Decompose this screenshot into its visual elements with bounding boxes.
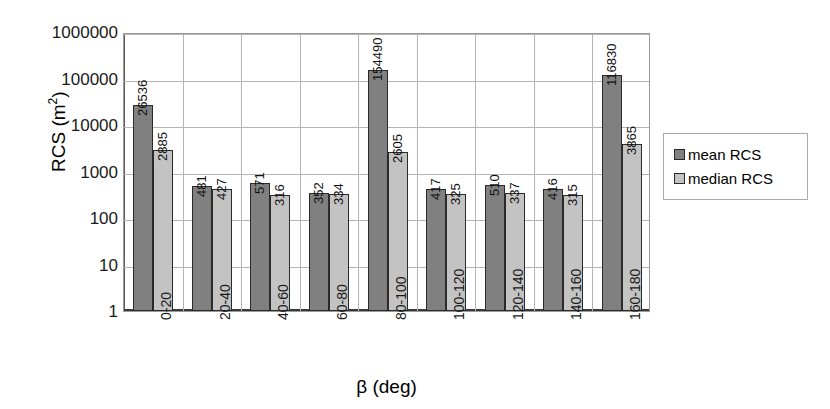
x-axis-tick-label: 120-140 [511,269,525,320]
rcs-bar-chart: RCS (m2) 1000000100000100001000100101 26… [0,0,830,409]
y-axis-tick-label: 10 [99,257,118,274]
legend-swatch-icon [674,173,685,184]
x-axis-title: β (deg) [123,376,650,398]
bar-value-label: 510 [488,174,501,196]
bar-mean[interactable] [309,193,329,311]
x-gridline [183,34,184,311]
y-axis-tick-label: 1 [109,303,118,320]
bar-value-label: 571 [253,172,266,194]
bar-value-label: 116830 [605,44,618,86]
y-axis-tick-labels: 1000000100000100001000100101 [0,0,118,409]
x-axis-tick-label: 20-40 [218,284,232,320]
bar-value-label: 2885 [156,132,169,161]
bar-value-label: 325 [449,183,462,205]
legend-label: mean RCS [688,147,761,162]
bar-mean[interactable] [250,183,270,311]
bar-mean[interactable] [543,189,563,311]
x-axis-tick-label: 40-60 [276,284,290,320]
bar-median[interactable] [153,150,173,311]
bar-mean[interactable] [133,105,153,311]
y-axis-tick-label: 10000 [71,117,118,134]
x-gridline [358,34,359,311]
y-axis-tick-label: 1000 [80,164,118,181]
bar-value-label: 3865 [625,126,638,155]
legend-item-median[interactable]: median RCS [674,166,797,190]
legend-swatch-icon [674,149,685,160]
x-gridline [241,34,242,311]
bar-value-label: 416 [546,179,559,201]
x-axis-tick-label: 80-100 [394,276,408,320]
bar-mean[interactable] [602,75,622,311]
x-axis-tick-label: 60-80 [335,284,349,320]
bar-value-label: 26536 [136,80,149,116]
bar-value-label: 2605 [391,134,404,163]
bar-mean[interactable] [485,185,505,311]
y-axis-tick-label: 100000 [61,71,118,88]
legend-label: median RCS [688,171,773,186]
bar-value-label: 315 [566,184,579,206]
bar-value-label: 352 [312,182,325,204]
bar-mean[interactable] [192,186,212,311]
x-gridline [300,34,301,311]
bar-mean[interactable] [368,70,388,311]
bar-value-label: 417 [429,178,442,200]
bar-value-label: 316 [273,184,286,206]
y-axis-tick-label: 100 [90,210,118,227]
legend-item-mean[interactable]: mean RCS [674,142,797,166]
x-axis-tick-label: 100-120 [452,269,466,320]
legend: mean RCSmedian RCS [663,133,808,200]
x-gridline [475,34,476,311]
bar-value-label: 334 [332,183,345,205]
bar-mean[interactable] [426,189,446,311]
x-gridline [534,34,535,311]
bar-value-label: 427 [215,178,228,200]
y-axis-tick-label: 1000000 [52,24,118,41]
x-axis-tick-label: 140-160 [569,269,583,320]
bar-value-label: 337 [508,183,521,205]
x-gridline [592,34,593,311]
y-axis-line [124,34,125,311]
bar-value-label: 481 [195,176,208,198]
x-axis-tick-label: 160-180 [628,269,642,320]
x-axis-tick-label: 0-20 [159,292,173,320]
y-gridline [124,34,649,35]
bar-value-label: 154490 [371,37,384,80]
x-gridline [417,34,418,311]
